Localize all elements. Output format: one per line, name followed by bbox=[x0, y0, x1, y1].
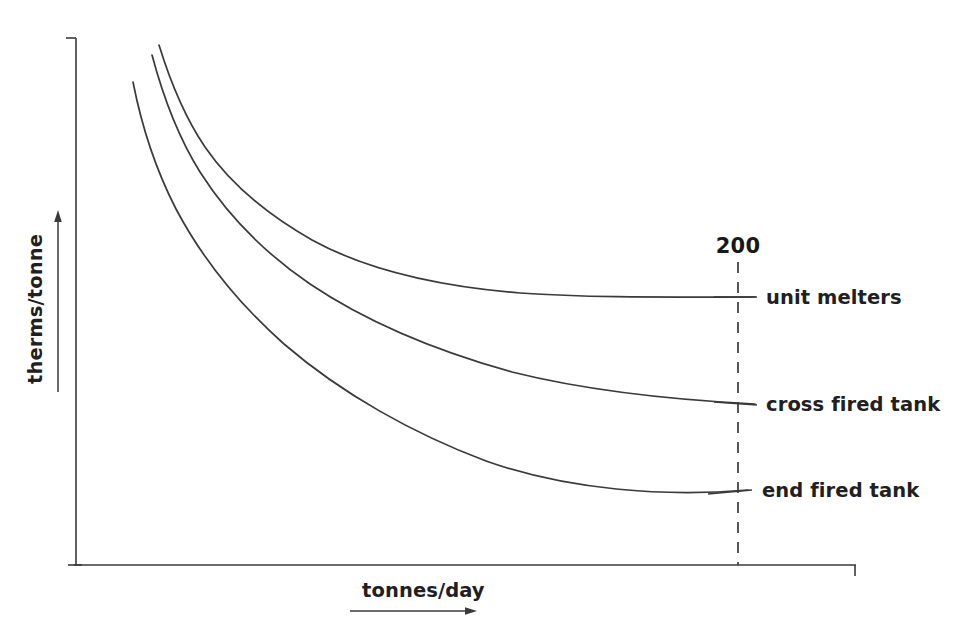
y-axis-title-group: therms/tonne bbox=[24, 210, 62, 392]
x-axis-title: tonnes/day bbox=[362, 579, 485, 602]
reference-line-label: 200 bbox=[716, 234, 761, 258]
curve-cross-fired-tank bbox=[152, 55, 755, 404]
x-axis-direction-arrow-head bbox=[465, 607, 477, 615]
reference-line-group: 200 bbox=[716, 234, 761, 565]
curve-end-fired-tank bbox=[133, 82, 748, 493]
series-label-unit-melters: unit melters bbox=[766, 286, 902, 309]
series-cross-fired-tank: cross fired tank bbox=[152, 55, 941, 416]
series-unit-melters: unit melters bbox=[159, 45, 902, 309]
y-axis-direction-arrow-head bbox=[54, 210, 62, 222]
x-axis-title-group: tonnes/day bbox=[350, 579, 485, 615]
chart-figure: therms/tonne tonnes/day 200 unit melters… bbox=[0, 0, 958, 642]
y-axis-title: therms/tonne bbox=[24, 234, 47, 384]
series-label-end-fired-tank: end fired tank bbox=[762, 479, 920, 502]
curve-unit-melters bbox=[159, 45, 755, 297]
series-label-cross-fired-tank: cross fired tank bbox=[766, 393, 941, 416]
chart-canvas: therms/tonne tonnes/day 200 unit melters… bbox=[0, 0, 958, 642]
